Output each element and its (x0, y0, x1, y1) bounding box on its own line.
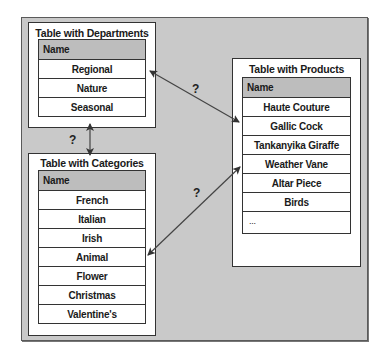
relation-label-departments-categories: ? (69, 133, 76, 147)
categories-products-arrow (148, 167, 240, 255)
relation-label-departments-products: ? (192, 82, 199, 96)
relation-label-categories-products: ? (193, 186, 200, 200)
relation-arrows (0, 0, 386, 358)
departments-products-arrow (150, 71, 239, 122)
